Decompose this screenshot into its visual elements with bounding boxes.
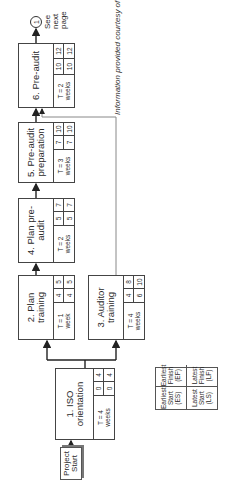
ls-value: 6 [134, 289, 144, 302]
task-title: 6. Pre-audit [19, 44, 53, 107]
task-title: 1. ISO orientation [56, 369, 93, 439]
schedule-grid: 5 7 5 7 [54, 199, 74, 225]
task-4-plan-pre-audit: 4. Plan pre-audit T = 2 weeks 5 7 5 7 [18, 198, 75, 263]
task-title: 3. Auditor training [89, 276, 123, 339]
ls-value: 7 [64, 136, 74, 149]
task-duration: T = 3 weeks [54, 149, 74, 182]
ls-value: 4 [64, 289, 74, 302]
credit-caption: Information provided courtesy of BGP [113, 0, 122, 115]
ef-value: 4 [94, 369, 104, 382]
task-title: 2. Plan training [19, 276, 53, 339]
schedule-grid: 10 12 10 12 [54, 44, 74, 74]
es-value: 5 [54, 212, 64, 225]
schedule-grid: 4 5 4 5 [54, 276, 74, 302]
off-page-connector-icon: 1 [30, 16, 42, 28]
legend-ef: Earliest Finish (EF) [156, 365, 187, 387]
network-diagram: Project Start 1. ISO orientation T = 4 w… [0, 0, 233, 499]
legend-es: Earliest Start (ES) [156, 386, 187, 409]
task-title: 4. Plan pre-audit [19, 199, 53, 262]
task-duration: T = 1 week [54, 302, 74, 339]
ef-value: 5 [54, 276, 64, 289]
schedule-grid: 7 10 7 10 [54, 123, 74, 149]
lf-value: 10 [64, 123, 74, 136]
lf-value: 4 [104, 369, 114, 382]
schedule-grid: 0 4 0 4 [94, 369, 114, 395]
task-1-iso-orientation: 1. ISO orientation T = 4 weeks 0 4 0 4 [55, 368, 115, 440]
task-title: 5. Pre-audit preparation [19, 123, 53, 182]
lf-value: 12 [64, 44, 74, 59]
es-value: 4 [54, 289, 64, 302]
task-duration: T = 4 weeks [94, 395, 114, 439]
ef-value: 10 [54, 123, 64, 136]
legend-lf: Latest Finish (LF) [187, 365, 218, 387]
ls-value: 0 [104, 382, 114, 395]
see-next-page-note: See next page [44, 11, 68, 29]
ef-value: 8 [124, 276, 134, 289]
ef-value: 7 [54, 199, 64, 212]
ef-value: 12 [54, 44, 64, 59]
task-2-plan-training: 2. Plan training T = 1 week 4 5 4 5 [18, 275, 75, 340]
lf-value: 10 [134, 276, 144, 289]
project-start-label: Project Start [63, 451, 79, 476]
project-start-node: Project Start [60, 447, 82, 480]
task-6-pre-audit: 6. Pre-audit T = 2 weeks 10 12 10 12 [18, 43, 75, 108]
lf-value: 7 [64, 199, 74, 212]
es-value: 7 [54, 136, 64, 149]
legend-key: Earliest Start (ES) Earliest Finish (EF)… [155, 367, 218, 410]
task-5-pre-audit-preparation: 5. Pre-audit preparation T = 3 weeks 7 1… [18, 122, 75, 183]
es-value: 4 [124, 289, 134, 302]
lf-value: 5 [64, 276, 74, 289]
ls-value: 5 [64, 212, 74, 225]
es-value: 0 [94, 382, 104, 395]
task-3-auditor-training: 3. Auditor training T = 4 weeks 4 8 6 10 [88, 275, 145, 340]
es-value: 10 [54, 59, 64, 74]
task-duration: T = 2 weeks [54, 225, 74, 262]
ls-value: 10 [64, 59, 74, 74]
legend-ls: Latest Start (LS) [187, 386, 218, 409]
task-duration: T = 4 weeks [124, 302, 144, 339]
schedule-grid: 4 8 6 10 [124, 276, 144, 302]
task-duration: T = 2 weeks [54, 74, 74, 107]
